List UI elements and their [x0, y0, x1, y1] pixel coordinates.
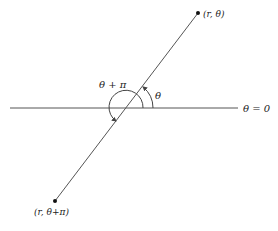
point-r-theta-plus-pi-label: (r, θ+π) — [34, 207, 69, 217]
polar-axis-label: θ = 0 — [243, 103, 271, 114]
radial-line — [55, 13, 198, 201]
theta-angle-label: θ — [155, 90, 161, 101]
polar-diagram: (r, θ) (r, θ+π) θ θ + π θ = 0 — [0, 0, 278, 231]
theta-plus-pi-angle-label: θ + π — [99, 79, 127, 90]
point-r-theta-plus-pi — [53, 199, 57, 203]
theta-plus-pi-arc-arrow-icon — [109, 90, 143, 121]
point-r-theta-label: (r, θ) — [203, 9, 225, 19]
point-r-theta — [196, 11, 200, 15]
theta-arc-arrow-icon — [143, 87, 153, 108]
